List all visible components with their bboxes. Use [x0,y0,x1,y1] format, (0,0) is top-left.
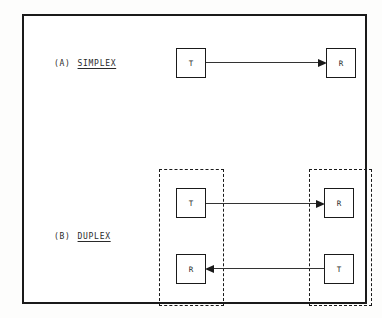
node-duplex-left-transmitter: T [176,188,206,218]
node-label: T [337,265,342,274]
arrow-head-left-icon [205,265,214,273]
section-label-simplex: (A)SIMPLEX [54,60,116,68]
node-label: R [337,199,342,208]
section-name-duplex: DUPLEX [78,232,111,241]
node-label: T [189,199,194,208]
node-simplex-transmitter: T [176,48,206,78]
arrow-duplex-reverse [205,263,325,275]
section-tag-b: (B) [54,232,71,241]
diagram-page: (A)SIMPLEX T R (B)DUPLEX T R R T [0,0,382,318]
node-simplex-receiver: R [326,48,356,78]
arrow-shaft [205,62,319,63]
arrow-duplex-forward [205,198,325,210]
arrow-simplex-forward [205,57,327,69]
section-tag-a: (A) [54,59,71,68]
arrow-shaft [205,203,317,204]
section-name-simplex: SIMPLEX [78,59,117,68]
node-label: T [189,59,194,68]
section-label-duplex: (B)DUPLEX [54,233,111,241]
node-duplex-left-receiver: R [176,254,206,284]
node-duplex-right-transmitter: T [324,254,354,284]
node-duplex-right-receiver: R [324,188,354,218]
outer-frame: (A)SIMPLEX T R (B)DUPLEX T R R T [22,14,367,304]
node-label: R [189,265,194,274]
node-label: R [339,59,344,68]
arrow-shaft [213,268,325,269]
